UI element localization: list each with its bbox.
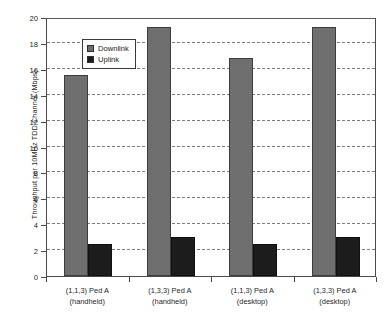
x-axis-category-line1: (1,1,3) Ped A xyxy=(66,286,109,295)
y-axis-tick-label: 4 xyxy=(0,221,38,230)
x-axis-tick xyxy=(211,277,212,282)
bar-uplink xyxy=(171,237,195,276)
y-axis-tick-label: 14 xyxy=(0,92,38,101)
downlink-swatch-icon xyxy=(87,45,94,52)
x-axis-tick xyxy=(376,277,377,282)
x-axis-tick xyxy=(129,277,130,282)
x-axis-category-line1: (1,3,3) Ped A xyxy=(313,286,356,295)
y-axis-tick-label: 0 xyxy=(0,273,38,282)
bar-uplink xyxy=(336,237,360,276)
y-axis-tick-label: 16 xyxy=(0,66,38,75)
y-axis-tick-label: 20 xyxy=(0,14,38,23)
page-bleed-through xyxy=(6,312,306,321)
y-axis-tick-label: 18 xyxy=(0,40,38,49)
bar-uplink xyxy=(88,244,112,276)
legend-label-downlink: Downlink xyxy=(98,44,129,53)
bar-downlink xyxy=(229,58,253,276)
bar-downlink xyxy=(312,27,336,276)
bar-downlink xyxy=(64,75,88,276)
legend-item-downlink: Downlink xyxy=(87,43,129,54)
x-axis-category-label: (1,3,3) Ped A(desktop) xyxy=(280,285,390,307)
x-axis-category-line1: (1,1,3) Ped A xyxy=(231,286,274,295)
x-axis-tick xyxy=(294,277,295,282)
y-axis-tick-label: 6 xyxy=(0,195,38,204)
y-axis-tick-label: 10 xyxy=(0,144,38,153)
legend-item-uplink: Uplink xyxy=(87,54,129,65)
uplink-swatch-icon xyxy=(87,56,94,63)
legend-label-uplink: Uplink xyxy=(98,55,119,64)
y-axis-tick-label: 12 xyxy=(0,118,38,127)
x-axis-tick xyxy=(46,277,47,282)
y-axis-tick-label: 8 xyxy=(0,169,38,178)
x-axis-category-line2: (desktop) xyxy=(280,296,390,307)
y-axis-tick-label: 2 xyxy=(0,247,38,256)
bar-chart-figure: Throughput per 10MHz TDD Channel (Mbps) … xyxy=(0,0,390,328)
chart-legend: Downlink Uplink xyxy=(82,39,136,69)
x-axis-category-line1: (1,3,3) Ped A xyxy=(148,286,191,295)
bar-uplink xyxy=(253,244,277,276)
bar-downlink xyxy=(147,27,171,276)
